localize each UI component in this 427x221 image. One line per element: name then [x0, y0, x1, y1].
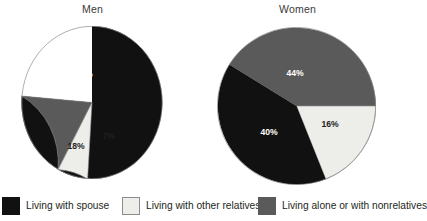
legend-swatch-icon-other-relatives	[122, 197, 140, 215]
pie-slices-women	[217, 27, 376, 184]
pie-label-women-1: 40%	[260, 127, 278, 137]
chart-title-women: Women	[255, 3, 340, 15]
legend-item-living-with-spouse: Living with spouse	[2, 196, 109, 216]
pie-chart-men: 74% 18% 7%	[21, 26, 163, 179]
pie-slices-men	[21, 26, 162, 179]
pie-label-women-2: 16%	[321, 119, 339, 129]
pie-chart-women: 44% 40% 16%	[217, 27, 376, 185]
chart-legend: Living with spouse Living with other rel…	[0, 195, 416, 221]
chart-title-men: Men	[50, 3, 135, 15]
legend-label-spouse: Living with spouse	[26, 201, 109, 211]
legend-label-other-relatives: Living with other relatives	[146, 201, 260, 211]
pie-label-men-1: 18%	[67, 141, 85, 151]
pie-label-men-0: 74%	[75, 69, 93, 79]
legend-label-alone-nonrelatives: Living alone or with nonrelatives	[282, 201, 427, 211]
legend-swatch-icon-alone-nonrelatives	[258, 197, 276, 215]
pie-label-men-2: 7%	[103, 131, 116, 141]
legend-item-living-alone-or-nonrelatives: Living alone or with nonrelatives	[258, 196, 427, 216]
pie-label-women-0: 44%	[286, 68, 304, 78]
legend-item-living-with-other-relatives: Living with other relatives	[122, 196, 260, 216]
legend-swatch-icon-spouse	[2, 197, 20, 215]
